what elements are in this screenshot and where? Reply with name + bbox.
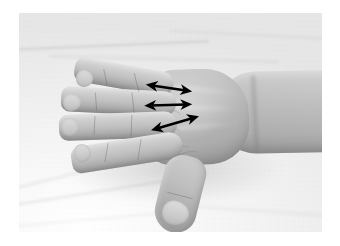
- figure-root: [0, 0, 340, 246]
- clinical-photograph: [19, 13, 322, 232]
